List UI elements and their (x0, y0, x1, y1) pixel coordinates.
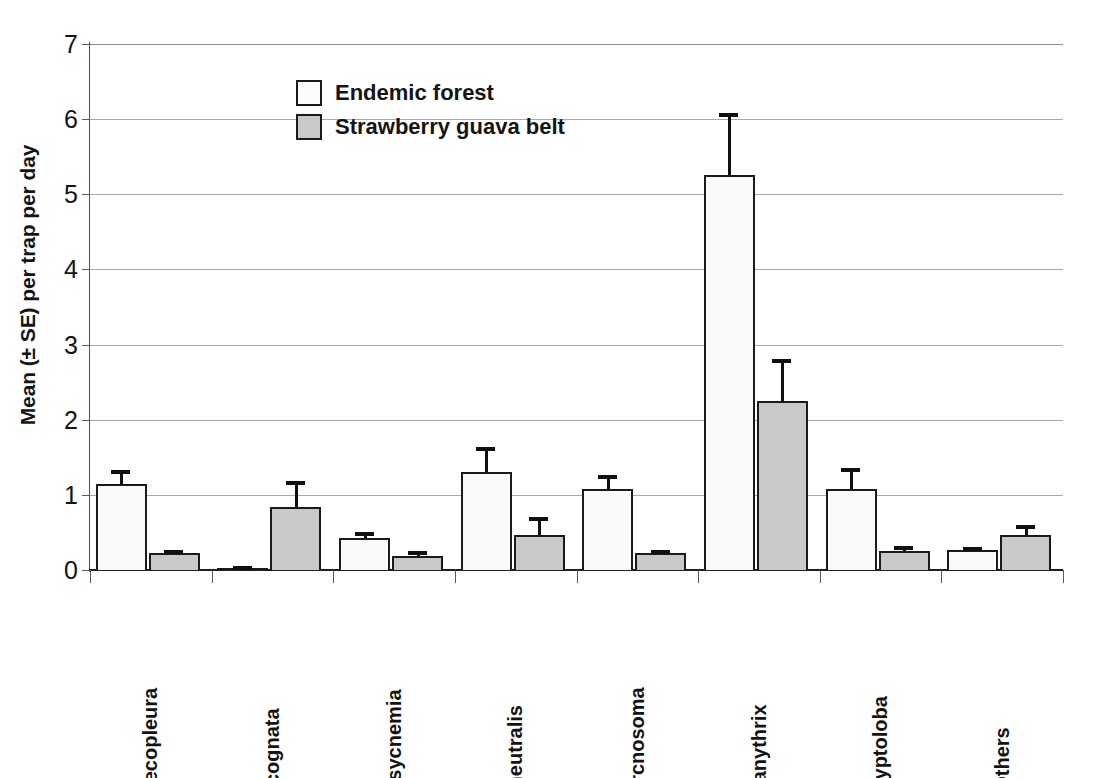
plot-area: 01234567 (90, 44, 1063, 570)
category-label-text: D. percnosoma (626, 687, 649, 778)
bar-chart-figure: Mean (± SE) per trap per day 01234567 D.… (0, 0, 1103, 778)
y-axis-title-label: Mean (± SE) per trap per day (16, 145, 40, 426)
legend-swatch-endemic (296, 80, 322, 106)
error-bar-cap (408, 551, 427, 555)
legend-label: Endemic forest (335, 80, 494, 106)
y-tick-label: 2 (64, 407, 78, 432)
bar (635, 553, 686, 570)
x-axis-category-label: Others (941, 586, 1063, 771)
gridline (90, 269, 1063, 270)
x-axis-category-label: D. neutralis (455, 586, 577, 771)
category-label-text: D. neutralis (504, 705, 527, 778)
y-tick-label: 7 (64, 32, 78, 57)
error-bar-cap (111, 470, 130, 474)
error-bar-cap (1016, 525, 1035, 529)
x-tick-mark (577, 570, 578, 583)
legend-item: Strawberry guava belt (296, 110, 565, 144)
category-label-text: D. cnecopleura (139, 688, 162, 778)
bar (461, 472, 512, 570)
error-bar-cap (841, 468, 860, 472)
x-axis-category-label: D. percnosoma (577, 586, 699, 771)
y-tick-label: 3 (64, 332, 78, 357)
y-axis-line (89, 42, 90, 572)
gridline (90, 345, 1063, 346)
error-bar-cap (719, 113, 738, 117)
category-label-text: Others (991, 727, 1014, 778)
y-tick-label: 6 (64, 107, 78, 132)
error-bar-cap (651, 550, 670, 554)
y-tick-label: 5 (64, 182, 78, 207)
x-tick-mark (698, 570, 699, 583)
bar (1000, 535, 1051, 570)
bar (582, 489, 633, 570)
legend-label: Strawberry guava belt (335, 114, 565, 140)
legend-item: Endemic forest (296, 76, 565, 110)
gridline (90, 44, 1063, 45)
category-label-text: S. cryptoloba (869, 696, 892, 778)
bar (392, 556, 443, 570)
y-tick-mark (82, 269, 90, 270)
x-tick-mark (941, 570, 942, 583)
x-tick-mark (820, 570, 821, 583)
bar (270, 507, 321, 570)
gridline (90, 420, 1063, 421)
error-bar-cap (894, 546, 913, 550)
gridline (90, 119, 1063, 120)
error-bar-cap (529, 517, 548, 521)
bar (96, 484, 147, 570)
x-axis-category-label: D. cognata (212, 586, 334, 771)
bar (947, 550, 998, 570)
y-tick-mark (82, 420, 90, 421)
error-bar-stem (728, 113, 731, 175)
y-tick-mark (82, 345, 90, 346)
bar (339, 538, 390, 570)
bar (514, 535, 565, 570)
error-bar-cap (355, 532, 374, 536)
category-label-text: D. tanythrix (747, 704, 770, 778)
chart-legend: Endemic forestStrawberry guava belt (296, 76, 565, 144)
x-axis-category-label: D. cnecopleura (90, 586, 212, 771)
category-label-text: D. cognata (261, 708, 284, 778)
error-bar-stem (781, 359, 784, 401)
x-axis-category-label: S. cryptoloba (820, 586, 942, 771)
error-bar-cap (598, 475, 617, 479)
bar (757, 401, 808, 570)
error-bar-cap (286, 481, 305, 485)
y-tick-label: 4 (64, 257, 78, 282)
error-bar-cap (164, 550, 183, 554)
x-axis-category-label: D. dasycnemia (333, 586, 455, 771)
error-bar-cap (963, 547, 982, 551)
y-tick-mark (82, 119, 90, 120)
gridline (90, 495, 1063, 496)
x-tick-mark (212, 570, 213, 583)
x-tick-mark (455, 570, 456, 583)
y-tick-mark (82, 44, 90, 45)
y-tick-mark (82, 570, 90, 571)
gridline (90, 194, 1063, 195)
x-tick-mark (333, 570, 334, 583)
y-axis-title: Mean (± SE) per trap per day (0, 0, 56, 570)
error-bar-cap (772, 359, 791, 363)
error-bar-cap (476, 447, 495, 451)
error-bar-cap (233, 566, 252, 570)
legend-swatch-guava (296, 114, 322, 140)
y-tick-mark (82, 495, 90, 496)
bar (879, 551, 930, 570)
bar (704, 175, 755, 570)
y-tick-label: 0 (64, 558, 78, 583)
bar (149, 553, 200, 570)
bar (826, 489, 877, 570)
x-tick-mark (1063, 570, 1064, 583)
y-tick-mark (82, 194, 90, 195)
x-axis-category-label: D. tanythrix (698, 586, 820, 771)
x-tick-mark (90, 570, 91, 583)
y-tick-label: 1 (64, 482, 78, 507)
category-label-text: D. dasycnemia (383, 689, 406, 778)
